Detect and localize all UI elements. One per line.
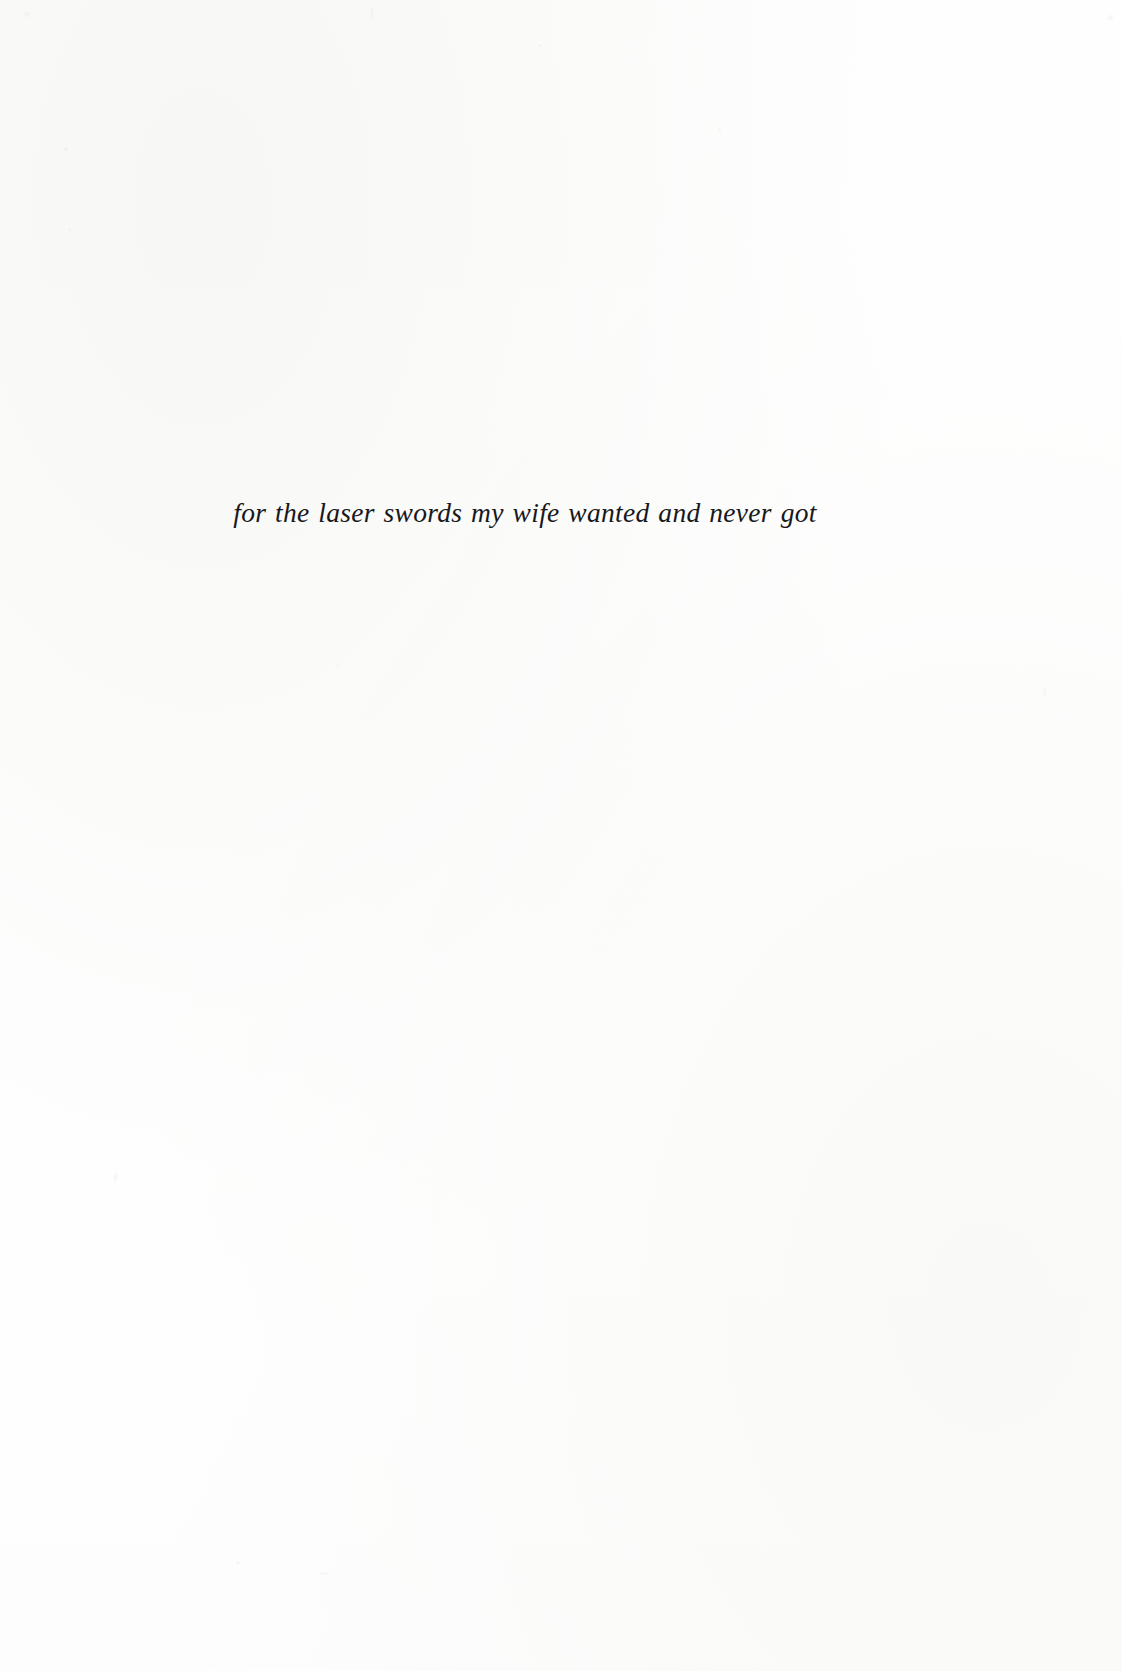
scan-speck <box>1108 15 1113 20</box>
scan-speck <box>68 228 71 231</box>
dedication-text: for the laser swords my wife wanted and … <box>233 496 816 530</box>
book-page: for the laser swords my wife wanted and … <box>0 0 1122 1671</box>
scan-speck <box>320 1572 329 1575</box>
paper-texture <box>0 0 1122 1671</box>
scan-speck <box>336 663 339 666</box>
scan-speck <box>24 12 30 17</box>
scan-speck <box>64 147 68 151</box>
scan-speck <box>539 44 542 47</box>
scan-speck <box>371 8 373 19</box>
scan-speck <box>718 128 721 132</box>
dedication-block: for the laser swords my wife wanted and … <box>0 496 1122 530</box>
scan-speck <box>1043 688 1046 696</box>
dedication-inner: for the laser swords my wife wanted and … <box>0 496 1122 530</box>
scan-speck <box>236 1561 240 1565</box>
scan-speck <box>114 1173 117 1181</box>
